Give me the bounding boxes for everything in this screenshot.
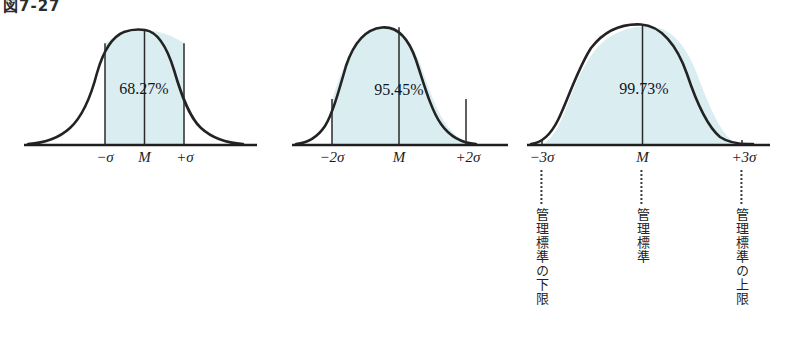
percent-label-1sigma: 68.27% — [119, 80, 168, 98]
percent-label-3sigma: 99.73% — [619, 80, 668, 98]
annotation-text-upper-control-limit: 管理標準の上限 — [733, 208, 750, 306]
leader-dots-lower — [540, 170, 544, 204]
annotation-text-lower-control-limit: 管理標準の下限 — [533, 208, 550, 306]
tick-label-mean-3sigma: M — [636, 149, 649, 166]
tick-label-plus-3sigma: +3σ — [731, 149, 756, 166]
tick-label-minus-3sigma: −3σ — [529, 149, 554, 166]
annotation-control-standard: 管理標準 — [634, 170, 651, 264]
normal-curve-panel-1sigma: 68.27% −σ M +σ — [14, 0, 272, 342]
leader-dots-center — [641, 170, 645, 204]
percent-label-2sigma: 95.45% — [374, 81, 423, 99]
tick-label-minus-2sigma: −2σ — [319, 149, 344, 166]
normal-curve-panel-3sigma: 99.73% −3σ M +3σ 管理標準の下限 管理標準 管理標準の上限 — [515, 0, 790, 342]
annotation-lower-control-limit: 管理標準の下限 — [533, 170, 550, 306]
tick-label-plus-sigma: +σ — [176, 149, 194, 166]
leader-dots-upper — [740, 170, 744, 204]
tick-label-mean-2sigma: M — [393, 149, 406, 166]
curve-svg-2sigma — [282, 0, 522, 160]
annotation-upper-control-limit: 管理標準の上限 — [733, 170, 750, 306]
annotation-text-control-standard: 管理標準 — [634, 208, 651, 264]
normal-curve-panel-2sigma: 95.45% −2σ M +2σ — [282, 0, 522, 342]
tick-label-minus-sigma: −σ — [96, 149, 114, 166]
tick-label-plus-2sigma: +2σ — [455, 149, 480, 166]
normal-distribution-figure: 図7-27 68.27% −σ M +σ — [0, 0, 790, 342]
tick-label-mean-1sigma: M — [138, 149, 151, 166]
